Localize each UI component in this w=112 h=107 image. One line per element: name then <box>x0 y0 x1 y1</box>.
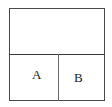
horizontal-divider <box>9 54 105 55</box>
region-label-a: A <box>32 68 41 81</box>
vertical-divider <box>58 54 59 101</box>
region-label-b: B <box>74 71 83 84</box>
